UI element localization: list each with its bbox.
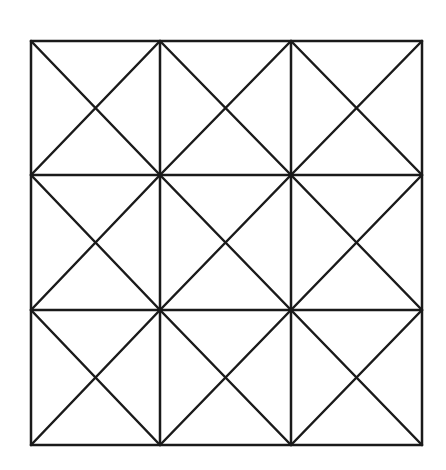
grid-diagram (0, 0, 446, 470)
cell-diagonals (31, 41, 422, 445)
